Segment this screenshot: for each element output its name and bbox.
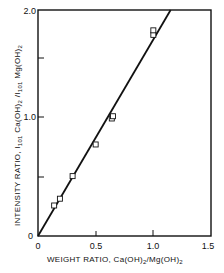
x-axis	[96, 230, 153, 236]
regression-line	[38, 10, 171, 236]
x-tick-label: 1.5	[202, 241, 215, 251]
y-axis-title: INTENSITY RATIO, I101 Ca(OH)2 /I101 Mg(O…	[13, 45, 23, 227]
y-tick-label: 0	[28, 231, 33, 241]
plot-frame	[38, 10, 211, 236]
y-axis	[38, 58, 44, 177]
data-point-square-icon	[70, 174, 75, 179]
x-tick-label: 0	[35, 241, 40, 251]
data-point-square-icon	[57, 196, 62, 201]
x-tick-label: 1.0	[147, 241, 160, 251]
data-point-square-icon	[151, 28, 156, 33]
data-point-square-icon	[110, 114, 115, 119]
x-tick-label: 0.5	[90, 241, 103, 251]
data-point-square-icon	[52, 203, 57, 208]
data-points	[52, 28, 156, 208]
y-tick-label: 1.0	[23, 112, 36, 122]
chart: 0 1.0 2.0 0 0.5 1.0 1.5 WEIGHT RATIO, Ca…	[0, 0, 224, 273]
fit-line	[38, 10, 171, 236]
x-axis-title: WEIGHT RATIO, Ca(OH)2/Mg(OH)2	[47, 255, 183, 265]
data-point-square-icon	[93, 142, 98, 147]
y-tick-label: 2.0	[23, 6, 36, 16]
